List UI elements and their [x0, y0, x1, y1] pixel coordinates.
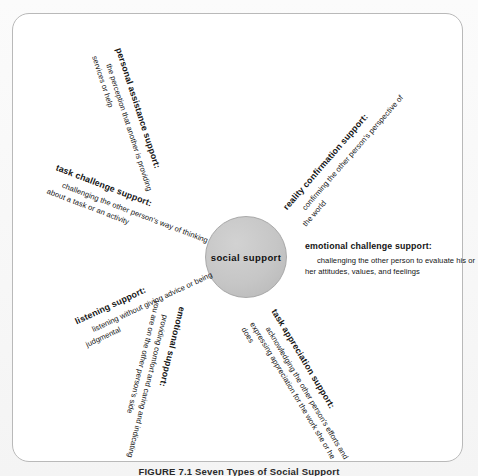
figure-page: social support personal assistance suppo…: [0, 0, 478, 476]
figure-caption: FIGURE 7.1 Seven Types of Social Support: [0, 466, 478, 476]
spoke-reality-confirmation-support: reality confirmation support: confirming…: [275, 73, 419, 229]
spoke-task-appreciation-support: task appreciation support: acknowledging…: [238, 303, 374, 476]
spoke-description: challenging the other person's way of th…: [45, 176, 211, 257]
spoke-description: confirming the other person's perspectiv…: [292, 88, 418, 229]
spoke-term: emotional challenge support:: [305, 241, 432, 251]
spoke-emotional-challenge-support: emotional challenge support: challenging…: [305, 233, 477, 277]
figure-panel: social support personal assistance suppo…: [12, 13, 463, 462]
spoke-description: challenging the other person to evaluate…: [305, 256, 477, 278]
